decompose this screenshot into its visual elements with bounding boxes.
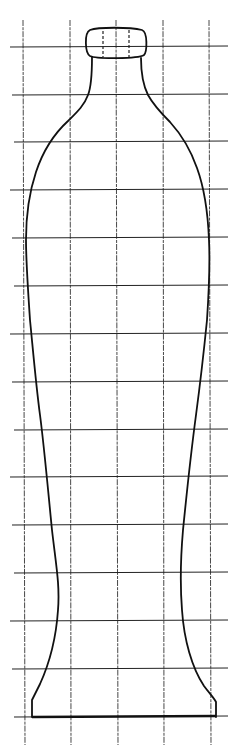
grid-line-horizontal xyxy=(12,381,228,382)
diagram-svg xyxy=(0,0,238,752)
grid-line-horizontal xyxy=(12,524,228,525)
bottle-right-profile xyxy=(141,58,216,717)
bottle-base xyxy=(32,716,216,717)
grid-line-horizontal xyxy=(10,333,228,334)
grid-line-vertical xyxy=(70,20,71,745)
grid-line-horizontal xyxy=(10,476,228,477)
grid-line-horizontal xyxy=(10,189,228,190)
grid-line-horizontal xyxy=(14,141,228,142)
grid-line-vertical xyxy=(116,20,118,745)
bottle-diagram xyxy=(0,0,238,752)
grid-line-horizontal xyxy=(10,620,228,621)
grid-line-horizontal xyxy=(10,46,228,47)
grid-line-horizontal xyxy=(12,94,228,95)
grid-line-vertical xyxy=(209,20,211,745)
grid-line-vertical xyxy=(23,20,25,745)
grid-line-horizontal xyxy=(14,285,228,286)
grid-line-vertical xyxy=(163,20,164,745)
grid xyxy=(10,20,228,745)
bottle-left-profile xyxy=(26,57,92,717)
bottle-outline xyxy=(26,28,216,717)
grid-line-horizontal xyxy=(14,572,228,573)
grid-line-horizontal xyxy=(14,429,228,430)
grid-line-horizontal xyxy=(12,237,228,238)
